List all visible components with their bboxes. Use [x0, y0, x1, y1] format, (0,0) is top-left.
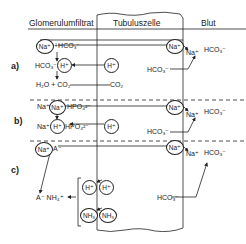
nh3-circle: NH₃ [99, 208, 117, 223]
na-ion-circle: Na⁺ [166, 140, 184, 155]
hpo4-label: HPO₄²⁻ [67, 103, 91, 111]
h-ion-circle: H⁺ [104, 119, 119, 134]
na-ion-circle: Na⁺ [36, 39, 54, 54]
header-blut: Blut [201, 19, 216, 27]
nh3-circle: NH₃ [80, 208, 98, 223]
na-label: Na⁺ [37, 123, 50, 131]
h2o-co2-label: H₂O + CO₂ [36, 81, 70, 89]
section-label-a: a) [11, 62, 19, 70]
na-ion-circle: Na⁺ [49, 100, 66, 115]
na-label: Na⁺ [186, 150, 199, 158]
diagram-lines [0, 0, 246, 244]
header-glomerulumfiltrat: Glomerulumfiltrat [29, 19, 94, 27]
na-ion-circle: Na⁺ [166, 39, 184, 54]
hco3-label: HCO₃⁻ [204, 108, 226, 116]
h-ion-circle: H⁺ [50, 119, 65, 134]
hco3-label: HCO₃⁻ [147, 128, 169, 136]
section-label-c: c) [11, 166, 19, 174]
header-tubuluszelle: Tubuluszelle [113, 19, 160, 27]
h-ion-circle: H⁺ [57, 58, 72, 73]
hco3-label: HCO₃⁻ [147, 66, 169, 74]
h-ion-circle: H⁺ [99, 180, 114, 195]
hco3-label: +HCO₃⁻ [54, 42, 81, 50]
na-ion-circle: Na⁺ [35, 142, 53, 157]
na-label: Na⁺ [37, 103, 50, 111]
section-label-b: b) [14, 117, 23, 125]
h-ion-circle: H⁺ [104, 58, 119, 73]
a-minus-label: A⁻ [53, 145, 62, 153]
hco3-label: HCO₃⁻ [157, 194, 179, 202]
hco3-label: HCO₃⁻ [204, 46, 226, 54]
co2-label: CO₂ [110, 81, 123, 89]
hco3-label: HCO₃⁻ [204, 149, 226, 157]
hpo4-label: HPO₄²⁻ [65, 123, 89, 131]
na-label: Na⁺ [186, 49, 199, 57]
na-label: Na⁺ [186, 111, 199, 119]
na-ion-circle: Na⁺ [166, 100, 184, 115]
a-nh4-label: A⁻ NH₄⁺ [36, 194, 64, 202]
h-ion-circle: H⁺ [82, 180, 97, 195]
